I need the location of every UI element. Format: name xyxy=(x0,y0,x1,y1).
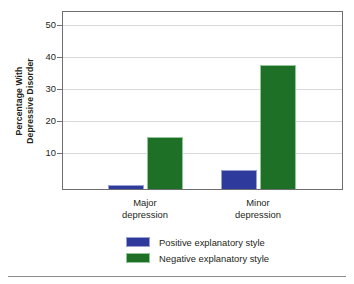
gridline-50 xyxy=(63,25,342,26)
y-axis-title-line-1: Percentage With xyxy=(14,58,25,144)
bar-minor-negative xyxy=(260,65,296,189)
y-tick-label-10: 10 xyxy=(34,148,56,158)
x-category-minor-line-2: depression xyxy=(203,209,313,221)
gridline-40 xyxy=(63,57,342,58)
bar-major-negative xyxy=(147,137,183,189)
chart-legend: Positive explanatory style Negative expl… xyxy=(0,234,354,266)
y-tick-label-50: 50 xyxy=(34,20,56,30)
bar-minor-positive xyxy=(221,170,257,189)
x-category-minor-line-1: Minor xyxy=(203,197,313,209)
y-tick-label-40: 40 xyxy=(34,52,56,62)
legend-swatch-negative-icon xyxy=(126,253,150,263)
gridline-30 xyxy=(63,89,342,90)
y-axis-title-line-2: Depressive Disorder xyxy=(25,58,36,144)
legend-swatch-positive-icon xyxy=(126,237,150,247)
legend-label-positive: Positive explanatory style xyxy=(159,237,265,248)
y-tick-label-20: 20 xyxy=(34,116,56,126)
x-category-major-line-1: Major xyxy=(90,197,200,209)
gridline-10 xyxy=(63,153,342,154)
legend-item-negative: Negative explanatory style xyxy=(0,250,354,266)
bar-major-positive xyxy=(108,185,144,189)
gridline-20 xyxy=(63,121,342,122)
bottom-divider xyxy=(8,276,346,277)
legend-label-negative: Negative explanatory style xyxy=(159,253,269,264)
y-axis-title: Percentage With Depressive Disorder xyxy=(10,11,40,190)
x-category-label-minor: Minor depression xyxy=(203,197,313,220)
bar-chart-figure: Percentage With Depressive Disorder 50 4… xyxy=(0,0,354,284)
plot-area xyxy=(62,11,343,190)
legend-item-positive: Positive explanatory style xyxy=(0,234,354,250)
x-category-major-line-2: depression xyxy=(90,209,200,221)
y-tick-label-30: 30 xyxy=(34,84,56,94)
x-category-label-major: Major depression xyxy=(90,197,200,220)
